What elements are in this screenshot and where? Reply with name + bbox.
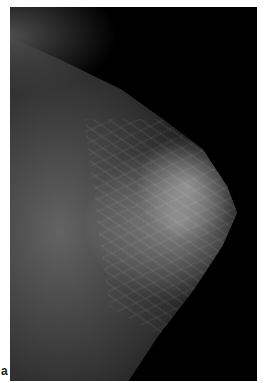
panel-label: a	[1, 364, 8, 378]
mammogram-image	[10, 7, 257, 381]
